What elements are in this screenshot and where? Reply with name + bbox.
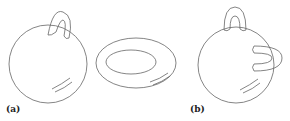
topology-diagram bbox=[0, 0, 290, 121]
torus bbox=[96, 38, 176, 88]
panel-label-b: (b) bbox=[190, 104, 205, 114]
sphere-a bbox=[9, 11, 87, 103]
sphere-b bbox=[198, 7, 282, 103]
panel-label-a: (a) bbox=[6, 104, 20, 114]
